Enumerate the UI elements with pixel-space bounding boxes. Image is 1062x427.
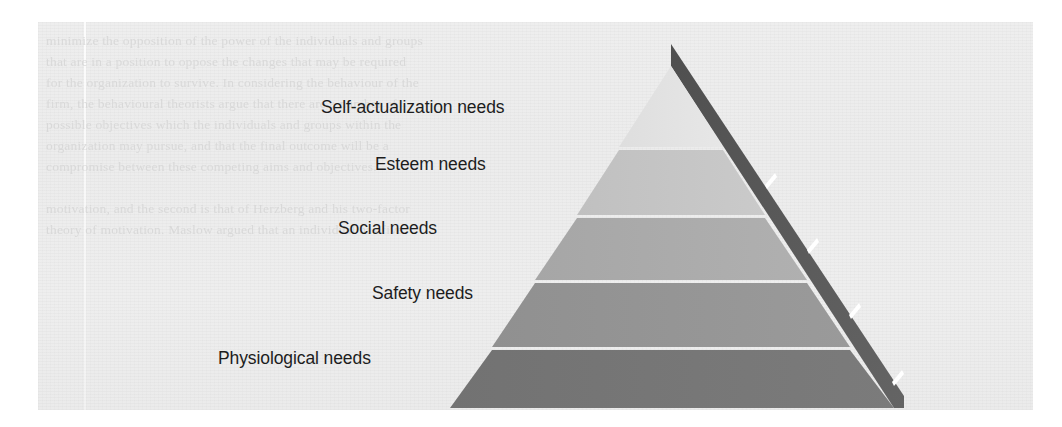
tier-face bbox=[450, 350, 894, 408]
tier-label-social: Social needs bbox=[338, 220, 437, 238]
tier-label-self-actualization: Self-actualization needs bbox=[321, 99, 504, 117]
scanned-page: minimize the opposition of the power of … bbox=[0, 0, 1062, 427]
tier-label-safety: Safety needs bbox=[372, 285, 473, 303]
pyramid-tier-social bbox=[535, 218, 807, 280]
pyramid-tier-physiological bbox=[450, 350, 894, 408]
pyramid-svg bbox=[38, 22, 1033, 410]
scan-area: minimize the opposition of the power of … bbox=[38, 22, 1033, 410]
tier-face bbox=[492, 283, 850, 347]
maslow-pyramid-figure: Self-actualization needs Esteem needs So… bbox=[38, 22, 1033, 410]
tier-label-physiological: Physiological needs bbox=[218, 350, 371, 368]
pyramid-tier-safety bbox=[492, 283, 850, 347]
side-face-divider bbox=[892, 370, 904, 386]
side-face-divider bbox=[807, 238, 819, 254]
tier-label-esteem: Esteem needs bbox=[375, 156, 486, 174]
side-face-divider bbox=[765, 173, 777, 189]
tier-face bbox=[535, 218, 807, 280]
side-face-divider bbox=[849, 303, 861, 319]
